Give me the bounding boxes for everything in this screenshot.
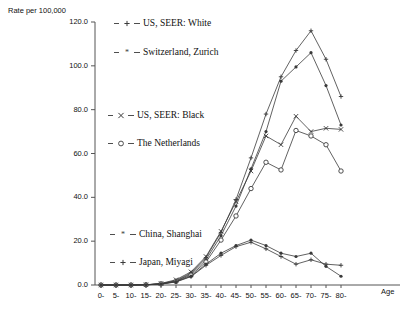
y-tick-label: 120.0 bbox=[40, 17, 88, 26]
legend-label: US, SEER: Black bbox=[137, 110, 204, 120]
y-tick-label: 60.0 bbox=[40, 149, 88, 158]
x-tick-label: 80- bbox=[329, 291, 353, 300]
legend-marker-asterisk-icon: * bbox=[114, 48, 140, 57]
chart-root: Rate per 100,000 Age 0.020.040.060.080.0… bbox=[0, 0, 414, 309]
legend-item-the-netherlands: The Netherlands bbox=[108, 138, 200, 148]
y-tick-label: 0.0 bbox=[40, 280, 88, 289]
legend-item-us-seer-white: US, SEER: White bbox=[114, 18, 211, 28]
legend-item-china-shanghai: *China, Shanghai bbox=[110, 229, 202, 239]
legend-marker-cross-icon bbox=[108, 111, 134, 120]
legend-label: China, Shanghai bbox=[139, 229, 202, 239]
legend-label: Japan, Miyagi bbox=[139, 257, 193, 267]
legend-label: US, SEER: White bbox=[143, 18, 211, 28]
series-switzerland-zurich bbox=[99, 51, 342, 287]
legend-item-us-seer-black: US, SEER: Black bbox=[108, 110, 204, 120]
legend-marker-asterisk-icon: * bbox=[110, 230, 136, 239]
legend-label: Switzerland, Zurich bbox=[143, 47, 218, 57]
legend-marker-plus-icon bbox=[110, 258, 136, 267]
svg-text:*: * bbox=[125, 48, 129, 57]
y-tick-label: 20.0 bbox=[40, 236, 88, 245]
svg-text:*: * bbox=[121, 230, 125, 239]
y-tick-label: 100.0 bbox=[40, 61, 88, 70]
y-tick-label: 40.0 bbox=[40, 192, 88, 201]
legend-label: The Netherlands bbox=[137, 138, 200, 148]
legend-marker-plus-icon bbox=[114, 19, 140, 28]
series-us-seer-white bbox=[99, 29, 343, 288]
x-axis-title: Age bbox=[381, 287, 394, 296]
y-tick-label: 80.0 bbox=[40, 105, 88, 114]
legend-marker-circle-icon bbox=[108, 139, 134, 148]
legend-item-japan-miyagi: Japan, Miyagi bbox=[110, 257, 193, 267]
legend-item-switzerland-zurich: *Switzerland, Zurich bbox=[114, 47, 218, 57]
